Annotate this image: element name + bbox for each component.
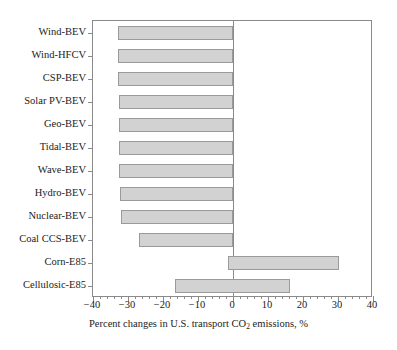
y-tick-label: Coal CCS-BEV bbox=[19, 233, 86, 244]
x-tick-label: 10 bbox=[262, 299, 273, 311]
x-tick-label: 0 bbox=[229, 299, 234, 311]
x-tick-label: −20 bbox=[154, 299, 170, 311]
x-tick-minor bbox=[142, 296, 143, 299]
y-tick-label: Geo-BEV bbox=[44, 118, 86, 129]
bar-cellulosic-e85 bbox=[175, 279, 290, 293]
x-tick-minor bbox=[247, 296, 248, 299]
bar-coal-ccs-bev bbox=[139, 233, 233, 247]
y-tick-label: Wave-BEV bbox=[38, 164, 86, 175]
bar-wind-bev bbox=[118, 26, 234, 40]
bar-row bbox=[93, 275, 371, 298]
y-tick-label: Nuclear-BEV bbox=[28, 210, 86, 221]
bar-chart-figure: Wind-BEVWind-HFCVCSP-BEVSolar PV-BEVGeo-… bbox=[0, 0, 397, 350]
bar-hydro-bev bbox=[120, 187, 233, 201]
y-tick-mark bbox=[88, 56, 93, 57]
y-axis-labels: Wind-BEVWind-HFCVCSP-BEVSolar PV-BEVGeo-… bbox=[0, 20, 86, 297]
bar-nuclear-bev bbox=[121, 210, 233, 224]
bar-row bbox=[93, 21, 371, 44]
x-tick-label: 20 bbox=[297, 299, 308, 311]
x-tick-minor bbox=[149, 296, 150, 299]
bar-row bbox=[93, 252, 371, 275]
x-tick-minor bbox=[345, 296, 346, 299]
y-tick-mark bbox=[88, 240, 93, 241]
x-tick-minor bbox=[254, 296, 255, 299]
y-tick-mark bbox=[88, 102, 93, 103]
bar-row bbox=[93, 67, 371, 90]
y-tick-label: Wind-BEV bbox=[39, 26, 86, 37]
bar-row bbox=[93, 229, 371, 252]
y-tick-label: Hydro-BEV bbox=[35, 187, 86, 198]
y-tick-mark bbox=[88, 263, 93, 264]
bar-wind-hfcv bbox=[118, 49, 233, 63]
y-tick-mark bbox=[88, 194, 93, 195]
x-tick-label: −10 bbox=[189, 299, 205, 311]
bar-row bbox=[93, 206, 371, 229]
x-tick-minor bbox=[212, 296, 213, 299]
x-tick-minor bbox=[107, 296, 108, 299]
y-tick-mark bbox=[88, 171, 93, 172]
y-tick-mark bbox=[88, 79, 93, 80]
y-tick-mark bbox=[88, 33, 93, 34]
bar-row bbox=[93, 183, 371, 206]
bar-corn-e85 bbox=[228, 256, 339, 270]
bar-row bbox=[93, 90, 371, 113]
x-tick-minor bbox=[114, 296, 115, 299]
x-tick-minor bbox=[310, 296, 311, 299]
x-tick-label: 40 bbox=[367, 299, 378, 311]
y-tick-label: Tidal-BEV bbox=[40, 141, 86, 152]
x-tick-minor bbox=[359, 296, 360, 299]
y-tick-label: Solar PV-BEV bbox=[24, 95, 86, 106]
bar-row bbox=[93, 160, 371, 183]
x-axis-title: Percent changes in U.S. transport CO2 em… bbox=[0, 318, 397, 329]
y-tick-label: Cellulosic-E85 bbox=[23, 279, 86, 290]
x-tick-minor bbox=[184, 296, 185, 299]
x-tick-minor bbox=[289, 296, 290, 299]
bar-geo-bev bbox=[119, 118, 233, 132]
x-tick-label: 30 bbox=[332, 299, 343, 311]
x-tick-minor bbox=[352, 296, 353, 299]
y-tick-label: CSP-BEV bbox=[43, 72, 86, 83]
plot-area bbox=[92, 20, 372, 297]
x-tick-label: −40 bbox=[84, 299, 100, 311]
y-tick-mark bbox=[88, 217, 93, 218]
co2-subscript: 2 bbox=[246, 322, 250, 331]
x-tick-minor bbox=[275, 296, 276, 299]
x-tick-minor bbox=[240, 296, 241, 299]
y-tick-label: Wind-HFCV bbox=[32, 49, 86, 60]
x-tick-minor bbox=[177, 296, 178, 299]
y-tick-mark bbox=[88, 148, 93, 149]
bar-tidal-bev bbox=[119, 141, 233, 155]
bar-csp-bev bbox=[118, 72, 234, 86]
bar-solar-pv-bev bbox=[119, 95, 233, 109]
bar-row bbox=[93, 136, 371, 159]
bar-row bbox=[93, 113, 371, 136]
y-tick-label: Corn-E85 bbox=[45, 256, 86, 267]
x-tick-minor bbox=[317, 296, 318, 299]
bar-wave-bev bbox=[119, 164, 233, 178]
x-tick-label: −30 bbox=[119, 299, 135, 311]
x-tick-minor bbox=[282, 296, 283, 299]
y-tick-mark bbox=[88, 286, 93, 287]
x-tick-minor bbox=[219, 296, 220, 299]
x-tick-minor bbox=[324, 296, 325, 299]
x-tick-minor bbox=[226, 296, 227, 299]
bar-row bbox=[93, 44, 371, 67]
y-tick-mark bbox=[88, 125, 93, 126]
